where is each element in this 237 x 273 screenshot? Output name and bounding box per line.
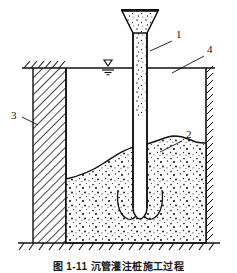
- label-1: 1: [176, 28, 182, 40]
- leader-line-4: [172, 56, 204, 73]
- label-4: 4: [207, 43, 213, 55]
- leader-line-1: [150, 41, 172, 51]
- right-wall-hatch-ticks: [207, 66, 213, 240]
- figure-caption: 图 1-11 沉管灌注桩施工过程: [0, 261, 237, 273]
- hatched-soil-column: [33, 68, 66, 243]
- left-ground-hatch-ticks: [24, 61, 65, 68]
- diagram-svg: 1 2 3 4: [0, 0, 237, 273]
- hopper-funnel: [121, 10, 159, 33]
- label-2: 2: [186, 128, 192, 140]
- label-3: 3: [11, 109, 17, 121]
- driven-casing-pipe: [133, 22, 147, 219]
- figure-root: 1 2 3 4 图 1-11 沉管灌注桩施工过程: [0, 0, 237, 273]
- ground-base-line: [18, 243, 220, 250]
